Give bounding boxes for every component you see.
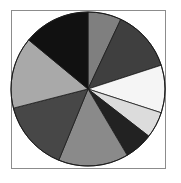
pie-slices [11, 12, 165, 166]
pie-chart [0, 0, 181, 183]
